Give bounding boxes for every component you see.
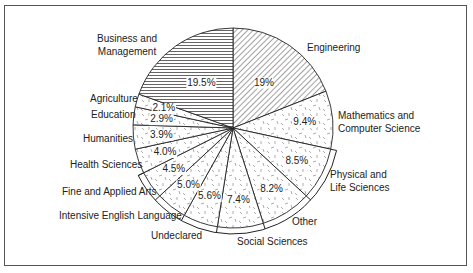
band-tick [263, 223, 265, 229]
label-engineering: Engineering [307, 42, 360, 53]
percent-label: 8.5% [285, 155, 308, 166]
percent-label: 5.0% [177, 179, 200, 190]
percent-label: 3.9% [150, 129, 173, 140]
percent-label: 8.2% [260, 183, 283, 194]
percent-label: 4.5% [162, 163, 185, 174]
pie-chart: 19%9.4%8.5%8.2%7.4%5.6%5.0%4.5%4.0%3.9%2… [0, 0, 473, 273]
label-business: Business andManagement [97, 33, 157, 57]
label-fine-arts: Fine and Applied Arts [62, 186, 157, 197]
label-social: Social Sciences [237, 236, 308, 247]
percent-label: 5.6% [198, 190, 221, 201]
label-humanities: Humanities [83, 133, 133, 144]
band-tick [331, 149, 337, 150]
label-other: Other [292, 216, 318, 227]
label-physical: Physical andLife Sciences [330, 169, 389, 193]
band-tick [216, 227, 217, 233]
percent-label: 4.0% [154, 146, 177, 157]
percent-label: 19% [254, 77, 274, 88]
percent-label: 9.4% [293, 116, 316, 127]
label-english: Intensive English Language [59, 210, 182, 221]
band-tick [306, 196, 310, 200]
percent-label: 19.5% [187, 77, 215, 88]
percent-label: 2.1% [152, 102, 175, 113]
label-math: Mathematics andComputer Science [338, 110, 421, 134]
band-tick [138, 173, 143, 176]
label-health: Health Sciences [70, 159, 142, 170]
percent-label: 2.9% [150, 113, 173, 124]
label-undeclared: Undeclared [151, 230, 202, 241]
percent-label: 7.4% [227, 194, 250, 205]
label-education: Education [91, 109, 135, 120]
label-agriculture: Agriculture [90, 93, 138, 104]
